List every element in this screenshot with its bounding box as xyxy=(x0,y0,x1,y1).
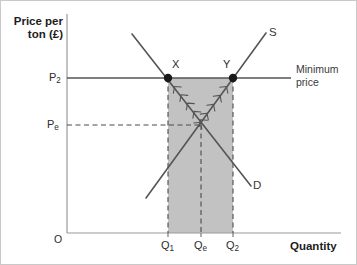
minimum-price-diagram: Price per ton (£) Quantity O P2 Pe Q1 Qe… xyxy=(0,0,357,265)
point-x-marker xyxy=(164,74,172,82)
point-y-marker xyxy=(229,74,237,82)
diagram-canvas xyxy=(1,1,357,265)
